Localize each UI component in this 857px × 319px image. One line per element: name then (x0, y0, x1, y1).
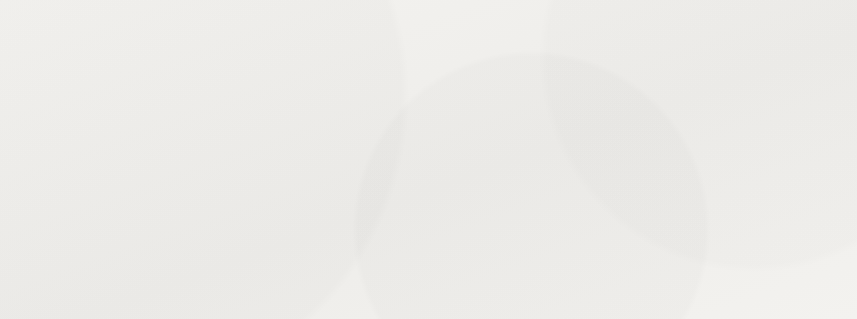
waveform-curves (74, 62, 806, 241)
label-p-negative-line2: POWER (607, 285, 681, 306)
axis-label-negative: — (21, 247, 55, 285)
axis-label-zero: 0 (30, 143, 47, 176)
label-e-text: E (533, 125, 545, 145)
waveform-plot: + 0 — P = POSITIVE POWER E I P= NEGATIVE (0, 0, 857, 319)
annotation-i: I (516, 181, 602, 201)
annotation-p-positive-power: P = POSITIVE POWER (588, 48, 786, 93)
label-p-positive-line1: P = POSITIVE (660, 48, 786, 69)
arrowhead-p-negative (498, 264, 514, 278)
annotation-e: E (466, 125, 545, 145)
annotation-p-negative-power: P= NEGATIVE POWER (498, 261, 689, 306)
label-p-negative-line1: P= NEGATIVE (560, 261, 689, 282)
arrowhead-p-positive (588, 51, 604, 65)
label-p-positive-line2: POWER (700, 72, 774, 93)
arrowhead-i (516, 183, 533, 197)
waveform-curve-p (74, 62, 806, 226)
axis-label-positive: + (28, 41, 48, 79)
label-i-text: I (597, 181, 602, 201)
zero-line (60, 158, 845, 162)
power-waveform-figure: + 0 — P = POSITIVE POWER E I P= NEGATIVE (0, 0, 857, 319)
